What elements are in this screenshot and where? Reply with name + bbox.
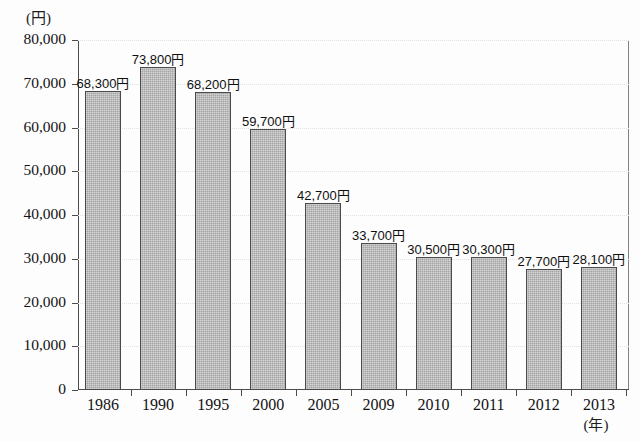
gridline [78,40,629,41]
y-axis-tick-label: 80,000 [0,30,66,48]
bar-value-label: 73,800円 [121,49,195,68]
bar [581,267,617,390]
y-axis-unit-label: (円) [26,6,51,27]
y-axis-tick-mark [72,40,78,41]
bar [361,243,397,390]
y-axis-tick-mark [72,215,78,216]
bar-value-label: 42,700円 [286,185,360,204]
bar [526,269,562,390]
bar [471,257,507,390]
y-axis-tick-label: 60,000 [0,118,66,136]
y-axis-tick-label: 50,000 [0,161,66,179]
y-axis-tick-label: 0 [0,380,66,398]
y-axis-tick-mark [72,171,78,172]
y-axis-tick-label: 30,000 [0,249,66,267]
y-axis-tick-mark [72,390,78,391]
bar [416,257,452,390]
y-axis-tick-mark [72,346,78,347]
bar [305,203,341,390]
bar [195,92,231,390]
y-axis-tick-mark [72,303,78,304]
y-axis-tick-label: 40,000 [0,205,66,223]
bar-value-label: 68,300円 [66,73,140,92]
bar [85,91,121,390]
x-axis-unit-label: (年) [566,413,626,434]
y-axis-tick-label: 20,000 [0,293,66,311]
y-axis-tick-label: 10,000 [0,336,66,354]
bar-value-label: 28,100円 [562,249,636,268]
bar [250,129,286,390]
plot-area: 68,300円73,800円68,200円59,700円42,700円33,70… [78,40,629,390]
bar [140,67,176,390]
y-axis-tick-mark [72,128,78,129]
y-axis-tick-mark [72,259,78,260]
y-axis-tick-label: 70,000 [0,74,66,92]
bar-value-label: 68,200円 [176,74,250,93]
bar-value-label: 59,700円 [231,111,305,130]
bar-chart: (円) 80,00070,00060,00050,00040,00030,000… [0,0,640,442]
x-axis-category-label: 2013 [566,396,632,414]
